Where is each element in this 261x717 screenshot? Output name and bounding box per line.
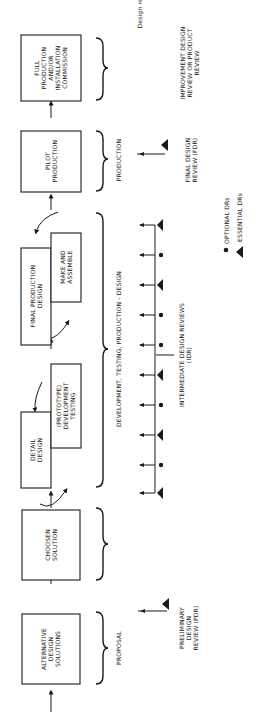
- stage-label-line: FINAL PRODUCTION: [29, 265, 36, 328]
- review-label-line: DESIGN: [185, 616, 192, 640]
- review-label-line: FINAL DESIGN: [184, 138, 191, 183]
- title-fragment: Design review: [136, 0, 144, 29]
- stage-label-line: MAKE AND: [59, 250, 66, 284]
- curved-arrow-make-back: [36, 212, 58, 232]
- review-labels: PRELIMINARYDESIGNREVIEW (PDR)INTERMEDIAT…: [178, 26, 200, 650]
- fdr-marker: [137, 139, 168, 156]
- title-fragment-text: Design review: [136, 0, 144, 29]
- stage-boxes: [21, 35, 81, 684]
- stage-label-line: TESTING: [69, 392, 76, 420]
- review-label-line: REVIEW OR PRODUCT: [186, 28, 193, 97]
- curved-arrow-prototype-back: [35, 382, 42, 410]
- brace-development: [96, 213, 108, 487]
- idr-arrowhead: [139, 223, 144, 227]
- legend: OPTIONAL DRs ESSENTIAL DRs: [223, 193, 243, 258]
- essential-triangle-icon: [157, 369, 163, 381]
- review-label-line: REVIEW (FDR): [191, 138, 198, 183]
- stage-label-line: ASSEMBLE: [66, 250, 73, 284]
- pdr-marker: [138, 598, 169, 613]
- review-label-line: IMPROVEMENT DESIGN: [179, 26, 186, 99]
- stage-label-chosen: CHOOSENSOLUTION: [44, 529, 58, 561]
- brace-chosen: [96, 508, 108, 580]
- fdr-arrowhead: [139, 152, 144, 156]
- curved-arrow-detail-up: [40, 490, 66, 506]
- essential-triangle-icon: [157, 429, 163, 441]
- phase-production-text: PRODUCTION: [115, 139, 122, 181]
- stage-label-line: DETAIL: [29, 439, 36, 461]
- idr-ladder: [139, 219, 174, 499]
- phase-label-development: DEVELOPMENT, TESTING, PRODUCTION - DESIG…: [115, 271, 122, 427]
- stage-label-detail: DETAILDESIGN: [29, 438, 43, 462]
- brace-pilot: [96, 131, 108, 191]
- idr-arrowhead: [139, 253, 144, 257]
- stage-label-line: COMMISSION: [61, 47, 68, 89]
- stage-label-line: DESIGN: [47, 637, 54, 661]
- review-label-preliminary: PRELIMINARYDESIGNREVIEW (PDR): [178, 606, 199, 651]
- legend-essential-triangle-icon: [236, 246, 243, 258]
- stage-label-line: INSTALLATION: [54, 46, 61, 91]
- review-label-final: FINAL DESIGNREVIEW (FDR): [184, 138, 198, 183]
- essential-triangle-icon: [162, 598, 169, 610]
- essential-triangle-icon: [157, 487, 163, 499]
- idr-arrowhead: [139, 433, 144, 437]
- essential-triangle-icon: [157, 219, 163, 231]
- stage-label-line: (PROTOTYPE): [55, 385, 62, 428]
- brace-alternative: [96, 612, 108, 684]
- stage-label-line: AND/OR: [47, 55, 54, 80]
- review-label-line: PRELIMINARY: [178, 607, 185, 649]
- idr-arrowhead: [139, 403, 144, 407]
- stage-label-line: DESIGN: [36, 284, 43, 308]
- brace-full: [96, 38, 108, 100]
- essential-triangle-icon: [157, 279, 163, 291]
- review-label-improvement: IMPROVEMENT DESIGNREVIEW OR PRODUCTREVIE…: [179, 26, 200, 99]
- review-label-intermediate: INTERMEDIATE DESIGN REVIEWS(IDR): [178, 303, 192, 407]
- optional-dot-icon: [159, 313, 163, 317]
- phase-development-text: DEVELOPMENT, TESTING, PRODUCTION - DESIG…: [115, 271, 122, 427]
- phase-braces: [96, 38, 108, 684]
- review-label-line: REVIEW: [193, 51, 200, 76]
- idr-arrowhead: [139, 343, 144, 347]
- stage-label-line: PRODUCTION: [40, 47, 47, 89]
- stage-label-line: ALTERNATIVE: [40, 628, 47, 670]
- review-label-line: INTERMEDIATE DESIGN REVIEWS: [178, 303, 185, 407]
- phase-proposal-text: PROPOSAL: [115, 631, 122, 665]
- stage-label-line: DESIGN: [36, 438, 43, 462]
- legend-optional-dot-icon: [224, 248, 229, 253]
- design-review-process-diagram: Design review ALTERNATIVEDESIGNSOLUTIONS…: [0, 0, 261, 717]
- idr-arrowhead: [139, 313, 144, 317]
- legend-essential-label: ESSENTIAL DRs: [236, 193, 243, 242]
- idr-arrowhead: [139, 373, 144, 377]
- pdr-arrowhead: [140, 609, 145, 613]
- stage-label-line: PRODUCTION: [51, 140, 58, 182]
- phase-label-proposal: PROPOSAL: [115, 631, 122, 665]
- phase-label-production: PRODUCTION: [115, 139, 122, 181]
- optional-dot-icon: [159, 343, 163, 347]
- stage-label-make: MAKE ANDASSEMBLE: [59, 250, 73, 284]
- stage-label-line: FULL: [33, 60, 40, 76]
- stage-label-line: SOLUTIONS: [54, 631, 61, 667]
- optional-dot-icon: [159, 253, 163, 257]
- stage-label-line: CHOOSEN: [44, 529, 51, 561]
- idr-arrowhead: [139, 283, 144, 287]
- stage-label-line: PILOT: [44, 152, 51, 170]
- stage-label-line: DEVELOPMENT: [62, 382, 69, 429]
- essential-triangle-icon: [161, 139, 168, 151]
- idr-arrowhead: [139, 491, 144, 495]
- optional-dot-icon: [159, 403, 163, 407]
- stage-label-line: SOLUTION: [51, 529, 58, 561]
- idr-arrowhead: [139, 463, 144, 467]
- review-label-line: (IDR): [185, 347, 192, 363]
- review-label-line: REVIEW (PDR): [192, 606, 199, 651]
- optional-dot-icon: [159, 463, 163, 467]
- legend-optional-label: OPTIONAL DRs: [223, 197, 230, 244]
